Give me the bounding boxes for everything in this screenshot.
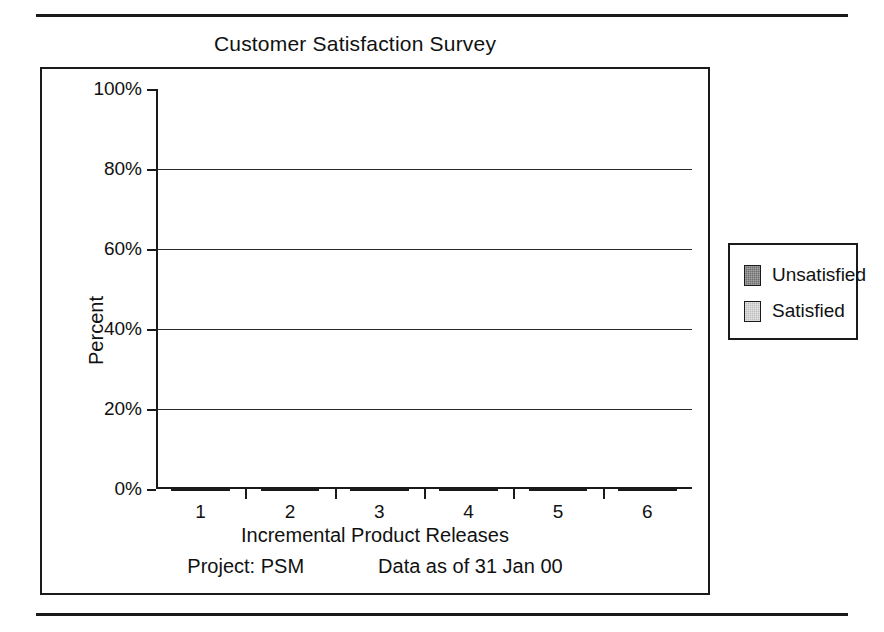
page-rule-bottom [36, 613, 848, 616]
bar-segment-satisfied [261, 489, 320, 491]
bar-segment-satisfied [439, 489, 498, 491]
footnote-data-as-of: Data as of 31 Jan 00 [378, 555, 563, 578]
x-tick-label: 2 [285, 501, 296, 523]
figure-panel: Percent 0%20%40%60%80%100% 123456 Increm… [40, 67, 710, 595]
bar-stack [350, 488, 409, 489]
y-tick-mark [147, 169, 156, 171]
bar-segment-satisfied [350, 489, 409, 491]
x-tick-label: 6 [642, 501, 653, 523]
legend-label-unsatisfied: Unsatisfied [772, 264, 866, 286]
bar-stack [261, 488, 320, 489]
bar-group [439, 89, 498, 489]
bar-group [261, 89, 320, 489]
bar-stack [439, 488, 498, 489]
x-tick-label: 4 [463, 501, 474, 523]
plot-area: 0%20%40%60%80%100% 123456 [156, 89, 692, 489]
legend-swatch-satisfied-icon [744, 301, 761, 322]
y-tick-label: 0% [115, 478, 142, 500]
legend-item-satisfied: Satisfied [744, 300, 844, 322]
x-tick-mark [245, 489, 247, 499]
y-tick-label: 40% [104, 318, 142, 340]
legend-label-satisfied: Satisfied [772, 300, 845, 322]
chart-title: Customer Satisfaction Survey [0, 32, 710, 56]
bar-group [618, 89, 677, 489]
bar-stack [618, 488, 677, 489]
bar-segment-satisfied [618, 489, 677, 491]
bar-group [171, 89, 230, 489]
x-tick-mark [603, 489, 605, 499]
y-tick-label: 100% [93, 78, 142, 100]
x-tick-label: 5 [553, 501, 564, 523]
bar-segment-satisfied [171, 489, 230, 491]
y-tick-label: 60% [104, 238, 142, 260]
legend-item-unsatisfied: Unsatisfied [744, 264, 844, 286]
bar-segment-satisfied [529, 489, 588, 491]
x-axis-title: Incremental Product Releases [42, 524, 708, 547]
x-tick-label: 3 [374, 501, 385, 523]
legend-swatch-unsatisfied-icon [744, 265, 761, 286]
y-tick-mark [147, 329, 156, 331]
x-tick-mark [335, 489, 337, 499]
footnote-project: Project: PSM [187, 555, 304, 578]
chart-legend: Unsatisfied Satisfied [728, 243, 858, 340]
bar-series-layer [156, 89, 692, 489]
y-tick-mark [147, 489, 156, 491]
y-tick-label: 80% [104, 158, 142, 180]
bar-stack [529, 488, 588, 489]
page-rule-top [36, 14, 848, 17]
footnote-row: Project: PSM Data as of 31 Jan 00 [42, 555, 708, 578]
bar-group [350, 89, 409, 489]
y-tick-label: 20% [104, 398, 142, 420]
y-tick-mark [147, 249, 156, 251]
y-tick-mark [147, 409, 156, 411]
y-tick-mark [147, 89, 156, 91]
bar-stack [171, 488, 230, 489]
bar-group [529, 89, 588, 489]
x-tick-mark [424, 489, 426, 499]
x-tick-label: 1 [195, 501, 206, 523]
x-tick-mark [513, 489, 515, 499]
